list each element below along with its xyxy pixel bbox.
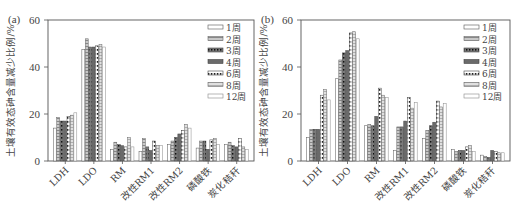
legend-swatch — [208, 25, 223, 29]
bar-RM-3周 — [117, 145, 120, 161]
legend-swatch — [464, 71, 479, 75]
bar-改性RM2-1周 — [168, 145, 171, 161]
legend-swatch — [464, 94, 479, 98]
bar-改性RM2-6周 — [181, 130, 184, 161]
bar-磷酸铁-2周 — [200, 141, 203, 161]
x-tick-label: 炭化秸秆 — [206, 165, 242, 201]
bar-RM-1周 — [364, 126, 367, 161]
bar-LDH-4周 — [64, 121, 67, 161]
bar-LDH-6周 — [67, 116, 70, 161]
bar-炭化秸秆-1周 — [480, 155, 483, 161]
bar-炭化秸秆-2周 — [228, 142, 231, 161]
bar-改性RM1-2周 — [142, 139, 145, 161]
legend-label: 8周 — [482, 81, 497, 91]
legend-swatch — [464, 83, 479, 87]
bar-磷酸铁-3周 — [458, 150, 461, 161]
legend-swatch — [208, 71, 223, 75]
bar-炭化秸秆-3周 — [232, 146, 235, 161]
bar-改性RM1-6周 — [153, 141, 156, 161]
bar-炭化秸秆-3周 — [487, 157, 490, 161]
legend-label: 6周 — [482, 69, 497, 79]
bar-LDO-12周 — [102, 47, 105, 161]
legend-label: 4周 — [226, 58, 241, 68]
bar-磷酸铁-6周 — [210, 140, 213, 161]
bar-磷酸铁-2周 — [455, 152, 458, 161]
x-tick-label: LDH — [47, 165, 70, 188]
bar-改性RM1-4周 — [149, 150, 152, 161]
bar-改性RM2-1周 — [422, 139, 425, 161]
x-tick-label: 炭化秸秆 — [462, 165, 498, 201]
bar-炭化秸秆-2周 — [484, 156, 487, 161]
bar-改性RM2-12周 — [443, 103, 446, 161]
legend-swatch — [464, 60, 479, 64]
bar-改性RM2-4周 — [178, 134, 181, 161]
bar-改性RM1-4周 — [404, 121, 407, 161]
legend-swatch — [464, 48, 479, 52]
bar-磷酸铁-6周 — [465, 147, 468, 161]
bar-炭化秸秆-8周 — [242, 147, 245, 161]
y-tick-label: 20 — [29, 108, 41, 120]
bar-LDO-3周 — [342, 53, 345, 161]
bar-改性RM1-1周 — [393, 150, 396, 161]
plot-frame — [48, 20, 254, 161]
y-tick-label: 40 — [282, 61, 294, 73]
bar-改性RM1-3周 — [400, 127, 403, 161]
bar-LDH-6周 — [320, 95, 323, 161]
bar-改性RM2-6周 — [436, 101, 439, 161]
bar-LDO-4周 — [346, 51, 349, 161]
legend-label: 6周 — [226, 69, 241, 79]
bar-改性RM2-8周 — [185, 125, 188, 161]
bar-磷酸铁-8周 — [469, 146, 472, 161]
legend-label: 1周 — [226, 23, 241, 33]
bar-LDO-1周 — [335, 79, 338, 161]
bar-炭化秸秆-6周 — [238, 139, 241, 161]
bar-LDH-2周 — [310, 129, 313, 161]
y-tick-label: 20 — [282, 108, 294, 120]
bar-磷酸铁-3周 — [203, 141, 206, 161]
legend-label: 4周 — [482, 58, 497, 68]
y-axis-label: 土壤有效态砷含量减少比例/% — [5, 24, 16, 156]
bar-LDO-12周 — [356, 39, 359, 161]
x-tick-label: RM — [108, 164, 128, 184]
bar-磷酸铁-8周 — [213, 139, 216, 161]
bar-LDH-12周 — [74, 113, 77, 161]
y-tick-label: 0 — [35, 155, 41, 167]
bar-LDO-8周 — [99, 45, 102, 161]
legend-label: 2周 — [482, 35, 497, 45]
bar-LDO-1周 — [82, 49, 85, 161]
bar-改性RM2-2周 — [171, 141, 174, 161]
bar-改性RM1-8周 — [156, 146, 159, 161]
bar-改性RM2-4周 — [433, 122, 436, 161]
legend-label: 3周 — [226, 46, 241, 56]
bar-RM-6周 — [124, 147, 127, 161]
x-tick-label: RM — [362, 164, 382, 184]
bar-RM-12周 — [385, 98, 388, 161]
bar-改性RM2-3周 — [174, 138, 177, 162]
bar-RM-6周 — [378, 88, 381, 161]
x-tick-label: LDH — [300, 165, 323, 188]
bar-LDH-1周 — [306, 138, 309, 162]
bar-改性RM1-12周 — [414, 102, 417, 161]
chart-figure: (a)0204060土壤有效态砷含量减少比例/%LDHLDORM改性RM1改性R… — [0, 0, 521, 212]
bar-LDH-1周 — [53, 128, 56, 161]
bar-改性RM2-3周 — [429, 126, 432, 161]
legend-label: 2周 — [226, 35, 241, 45]
bar-LDO-2周 — [85, 39, 88, 161]
bar-LDH-12周 — [327, 100, 330, 161]
bar-改性RM2-2周 — [426, 130, 429, 161]
bar-改性RM1-1周 — [139, 152, 142, 161]
bar-RM-1周 — [110, 149, 113, 161]
bar-LDH-3周 — [60, 121, 63, 161]
bar-RM-2周 — [114, 142, 117, 161]
bar-改性RM1-3周 — [146, 147, 149, 161]
bar-RM-4周 — [121, 146, 124, 161]
bar-改性RM1-2周 — [397, 127, 400, 161]
bar-LDH-3周 — [313, 129, 316, 161]
bar-炭化秸秆-12周 — [501, 153, 504, 161]
bar-炭化秸秆-4周 — [235, 147, 238, 161]
bar-改性RM2-8周 — [440, 107, 443, 161]
legend-label: 3周 — [482, 46, 497, 56]
bar-LDO-3周 — [89, 47, 92, 161]
y-tick-label: 0 — [288, 155, 294, 167]
legend-label: 12周 — [482, 92, 502, 102]
